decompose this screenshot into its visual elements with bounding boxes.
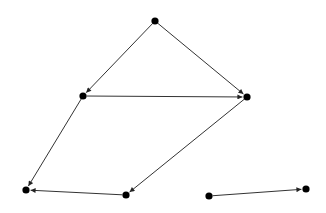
edge-n6-to-n7 <box>213 189 302 195</box>
node-n4 <box>22 186 29 193</box>
edge-n5-to-n4 <box>31 190 123 195</box>
edge-n1-to-n2 <box>86 24 152 93</box>
node-n2 <box>79 92 86 99</box>
node-n6 <box>205 192 212 199</box>
edges-layer <box>28 23 301 195</box>
edge-n1-to-n3 <box>158 23 244 94</box>
node-n1 <box>151 17 158 24</box>
nodes-layer <box>22 17 309 199</box>
edge-n2-to-n3 <box>87 96 243 97</box>
node-n7 <box>302 185 309 192</box>
edge-n2-to-n4 <box>28 99 81 186</box>
graph-canvas <box>0 0 326 213</box>
node-n3 <box>243 93 250 100</box>
node-n5 <box>122 191 129 198</box>
edge-n3-to-n5 <box>130 99 245 192</box>
